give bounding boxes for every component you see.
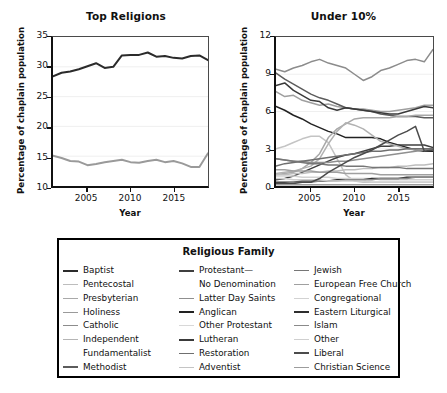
y-tick-mark [270, 74, 274, 75]
x-tick-mark [398, 188, 399, 192]
legend-column: BaptistPentecostalPresbyterianHolinessCa… [63, 264, 179, 374]
legend-line-swatch-icon [294, 325, 309, 326]
legend-item-label: Holiness [83, 308, 120, 317]
y-tick-mark [47, 66, 51, 67]
x-tick-label: 2015 [156, 193, 192, 203]
legend-columns: BaptistPentecostalPresbyterianHolinessCa… [63, 264, 396, 374]
y-tick-label: 35 [20, 30, 48, 40]
chart-panel-under-10: Under 10% Percentage of chaplain populat… [228, 0, 447, 232]
legend-item[interactable]: Other Protestant [179, 319, 294, 333]
y-tick-mark [270, 150, 274, 151]
legend-line-swatch-icon [179, 325, 194, 326]
y-tick-label: 30 [20, 60, 48, 70]
legend: Religious Family BaptistPentecostalPresb… [57, 238, 400, 378]
legend-item-label: Methodist [83, 363, 126, 372]
legend-item[interactable]: Fundamentalist [63, 347, 179, 361]
legend-item[interactable]: Catholic [63, 319, 179, 333]
legend-column: Protestant—No DenominationLatter Day Sai… [179, 264, 294, 374]
x-tick-mark [354, 188, 355, 192]
legend-item[interactable]: European Free Church [294, 278, 411, 292]
y-tick-mark [47, 127, 51, 128]
x-tick-label: 2010 [336, 193, 372, 203]
legend-line-swatch-icon [294, 367, 309, 368]
legend-item[interactable]: Adventist [179, 360, 294, 374]
x-tick-mark [130, 188, 131, 192]
y-tick-mark [47, 36, 51, 37]
legend-item[interactable]: Latter Day Saints [179, 292, 294, 306]
x-tick-mark [174, 188, 175, 192]
legend-item-label: Baptist [83, 266, 114, 275]
legend-line-swatch-icon [179, 270, 194, 272]
legend-item[interactable]: Pentecostal [63, 278, 179, 292]
legend-line-swatch-icon [179, 311, 194, 313]
legend-line-swatch-icon [294, 352, 309, 354]
legend-item-label: Anglican [199, 308, 237, 317]
legend-title: Religious Family [59, 246, 398, 257]
legend-item[interactable]: Anglican [179, 305, 294, 319]
legend-item[interactable]: Independent [63, 333, 179, 347]
x-tick-label: 2015 [380, 193, 416, 203]
legend-item-label: Lutheran [199, 335, 238, 344]
legend-item[interactable]: Methodist [63, 360, 179, 374]
legend-line-swatch-icon [179, 367, 194, 368]
chart-panel-top-religions: Top Religions Percentage of chaplain pop… [0, 0, 228, 232]
legend-item-label: Independent [83, 335, 139, 344]
line-chart-right [276, 37, 433, 186]
legend-item[interactable]: Jewish [294, 264, 411, 278]
legend-item-label: Pentecostal [83, 280, 134, 289]
y-tick-mark [47, 97, 51, 98]
legend-item[interactable]: Holiness [63, 305, 179, 319]
legend-line-swatch-icon [294, 284, 309, 285]
legend-item-label: Restoration [199, 349, 249, 358]
x-tick-mark [310, 188, 311, 192]
legend-line-swatch-icon [294, 311, 309, 313]
legend-line-swatch-icon [63, 325, 78, 326]
chart-title-left: Top Religions [24, 10, 228, 22]
y-tick-label: 10 [20, 182, 48, 192]
legend-item[interactable]: Presbyterian [63, 292, 179, 306]
legend-line-swatch-icon [179, 353, 194, 354]
plot-area-right [274, 36, 434, 188]
x-axis-label-right: Year [274, 208, 434, 218]
legend-item[interactable]: Liberal [294, 347, 411, 361]
legend-item[interactable]: Other [294, 333, 411, 347]
legend-item-label: European Free Church [314, 280, 411, 289]
legend-column: JewishEuropean Free ChurchCongregational… [294, 264, 411, 374]
legend-line-swatch-icon [294, 339, 309, 340]
legend-item[interactable]: Congregational [294, 292, 411, 306]
legend-line-swatch-icon [179, 298, 194, 299]
legend-item-label: Presbyterian [83, 294, 138, 303]
y-tick-label: 15 [20, 152, 48, 162]
legend-item[interactable]: Christian Science [294, 360, 411, 374]
legend-item-label: Islam [314, 321, 338, 330]
y-tick-label: 9 [243, 68, 271, 78]
legend-item[interactable]: Protestant— [179, 264, 294, 278]
legend-line-swatch-icon [294, 270, 309, 271]
legend-item-label: Liberal [314, 349, 344, 358]
legend-item-label: Catholic [83, 321, 119, 330]
y-tick-label: 20 [20, 121, 48, 131]
legend-item[interactable]: Restoration [179, 347, 294, 361]
legend-line-swatch-icon [63, 270, 78, 272]
legend-item[interactable]: Islam [294, 319, 411, 333]
legend-item-label: Other [314, 335, 339, 344]
legend-item[interactable]: Eastern Liturgical [294, 305, 411, 319]
y-tick-label: 3 [243, 144, 271, 154]
x-axis-label-left: Year [51, 208, 209, 218]
legend-item[interactable]: Lutheran [179, 333, 294, 347]
legend-line-swatch-icon [179, 339, 194, 341]
y-tick-mark [270, 188, 274, 189]
x-tick-label: 2005 [68, 193, 104, 203]
legend-item[interactable]: Baptist [63, 264, 179, 278]
legend-item-label: Adventist [199, 363, 241, 372]
legend-line-swatch-icon [63, 312, 78, 313]
legend-item-label: Protestant— [199, 266, 253, 275]
legend-item-label: Congregational [314, 294, 381, 303]
y-axis-label-left: Percentage of chaplain population [16, 27, 26, 194]
legend-item-label: Eastern Liturgical [314, 308, 391, 317]
chart-title-right: Under 10% [240, 10, 447, 22]
legend-item[interactable]: No Denomination [179, 278, 294, 292]
y-tick-mark [270, 112, 274, 113]
legend-item-label: Other Protestant [199, 321, 272, 330]
y-tick-label: 12 [243, 30, 271, 40]
